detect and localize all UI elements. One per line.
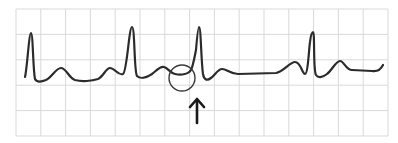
ecg-trace (25, 27, 383, 82)
highlight-circle (169, 65, 195, 91)
ecg-strip-canvas (0, 0, 398, 143)
ecg-strip-figure (0, 0, 398, 143)
